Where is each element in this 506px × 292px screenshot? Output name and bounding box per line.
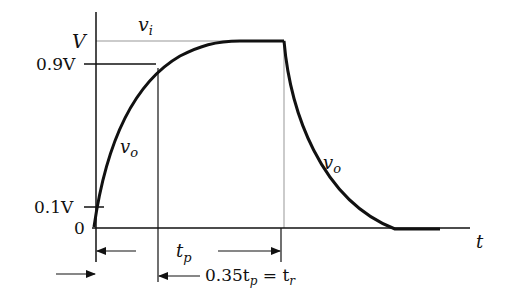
label-zero: 0 — [74, 218, 85, 238]
label-01V: 0.1V — [34, 197, 74, 217]
output-fall-curve — [284, 41, 440, 229]
label-V: V — [72, 30, 88, 52]
input-pulse — [96, 41, 284, 228]
label-tr: 0.35tp = tr — [205, 265, 296, 288]
label-vo-rise: vo — [120, 136, 138, 160]
output-rise-curve — [94, 41, 284, 227]
pulse-response-diagram: V 0.9V 0.1V 0 vi vo vo t tp 0.35tp = tr — [0, 0, 506, 292]
label-vo-fall: vo — [323, 152, 341, 176]
label-vi: vi — [138, 13, 153, 38]
label-tp: tp — [176, 240, 192, 265]
label-t-axis: t — [476, 231, 484, 252]
label-09V: 0.9V — [36, 54, 76, 74]
